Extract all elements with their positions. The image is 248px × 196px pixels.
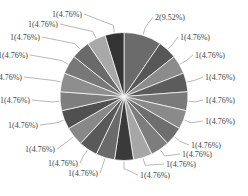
slice-label: 1(4.76%) xyxy=(28,20,58,29)
leader-line xyxy=(100,159,105,173)
slice-label: 1(4.76%) xyxy=(10,33,40,42)
leader-line xyxy=(30,55,68,64)
slice-label: 2(9.52%) xyxy=(155,13,185,22)
leader-line xyxy=(124,162,138,176)
pie-chart: 2(9.52%)1(4.76%)1(4.76%)1(4.76%)1(4.76%)… xyxy=(0,0,248,196)
leader-line xyxy=(84,14,114,32)
leader-line xyxy=(32,100,59,102)
slice-label: 1(4.76%) xyxy=(0,51,28,60)
slice-label: 1(4.76%) xyxy=(25,145,55,154)
leader-line xyxy=(24,77,61,82)
slice-label: 1(4.76%) xyxy=(182,150,212,159)
slice-label: 1(4.76%) xyxy=(52,10,82,19)
leader-line xyxy=(161,150,180,156)
leader-line xyxy=(57,137,73,149)
slice-label: 1(4.76%) xyxy=(48,159,78,168)
leader-line xyxy=(168,37,178,49)
slice-label: 1(4.76%) xyxy=(0,96,30,105)
leader-line xyxy=(185,120,204,123)
leader-line xyxy=(60,24,96,38)
slice-label: 1(4.76%) xyxy=(8,121,38,130)
leader-line xyxy=(40,120,64,125)
slice-label: 1(4.76%) xyxy=(0,73,22,82)
slice-label: 1(4.76%) xyxy=(205,73,235,82)
slice-label: 1(4.76%) xyxy=(140,171,170,180)
leader-line xyxy=(180,55,193,64)
leader-line xyxy=(143,17,153,34)
slice-label: 1(4.76%) xyxy=(205,117,235,126)
leader-line xyxy=(187,77,203,82)
leader-line xyxy=(189,100,203,102)
leader-line xyxy=(143,159,164,166)
slice-label: 1(4.76%) xyxy=(205,96,235,105)
pie-slices xyxy=(60,33,188,161)
slice-label: 1(4.76%) xyxy=(195,51,225,60)
slice-label: 1(4.76%) xyxy=(180,33,210,42)
slice-label: 1(4.76%) xyxy=(191,141,221,150)
leader-line xyxy=(175,137,189,145)
slice-label: 1(4.76%) xyxy=(166,160,196,169)
slice-label: 1(4.76%) xyxy=(68,169,98,178)
leader-line xyxy=(42,37,80,49)
leader-line xyxy=(80,150,87,163)
